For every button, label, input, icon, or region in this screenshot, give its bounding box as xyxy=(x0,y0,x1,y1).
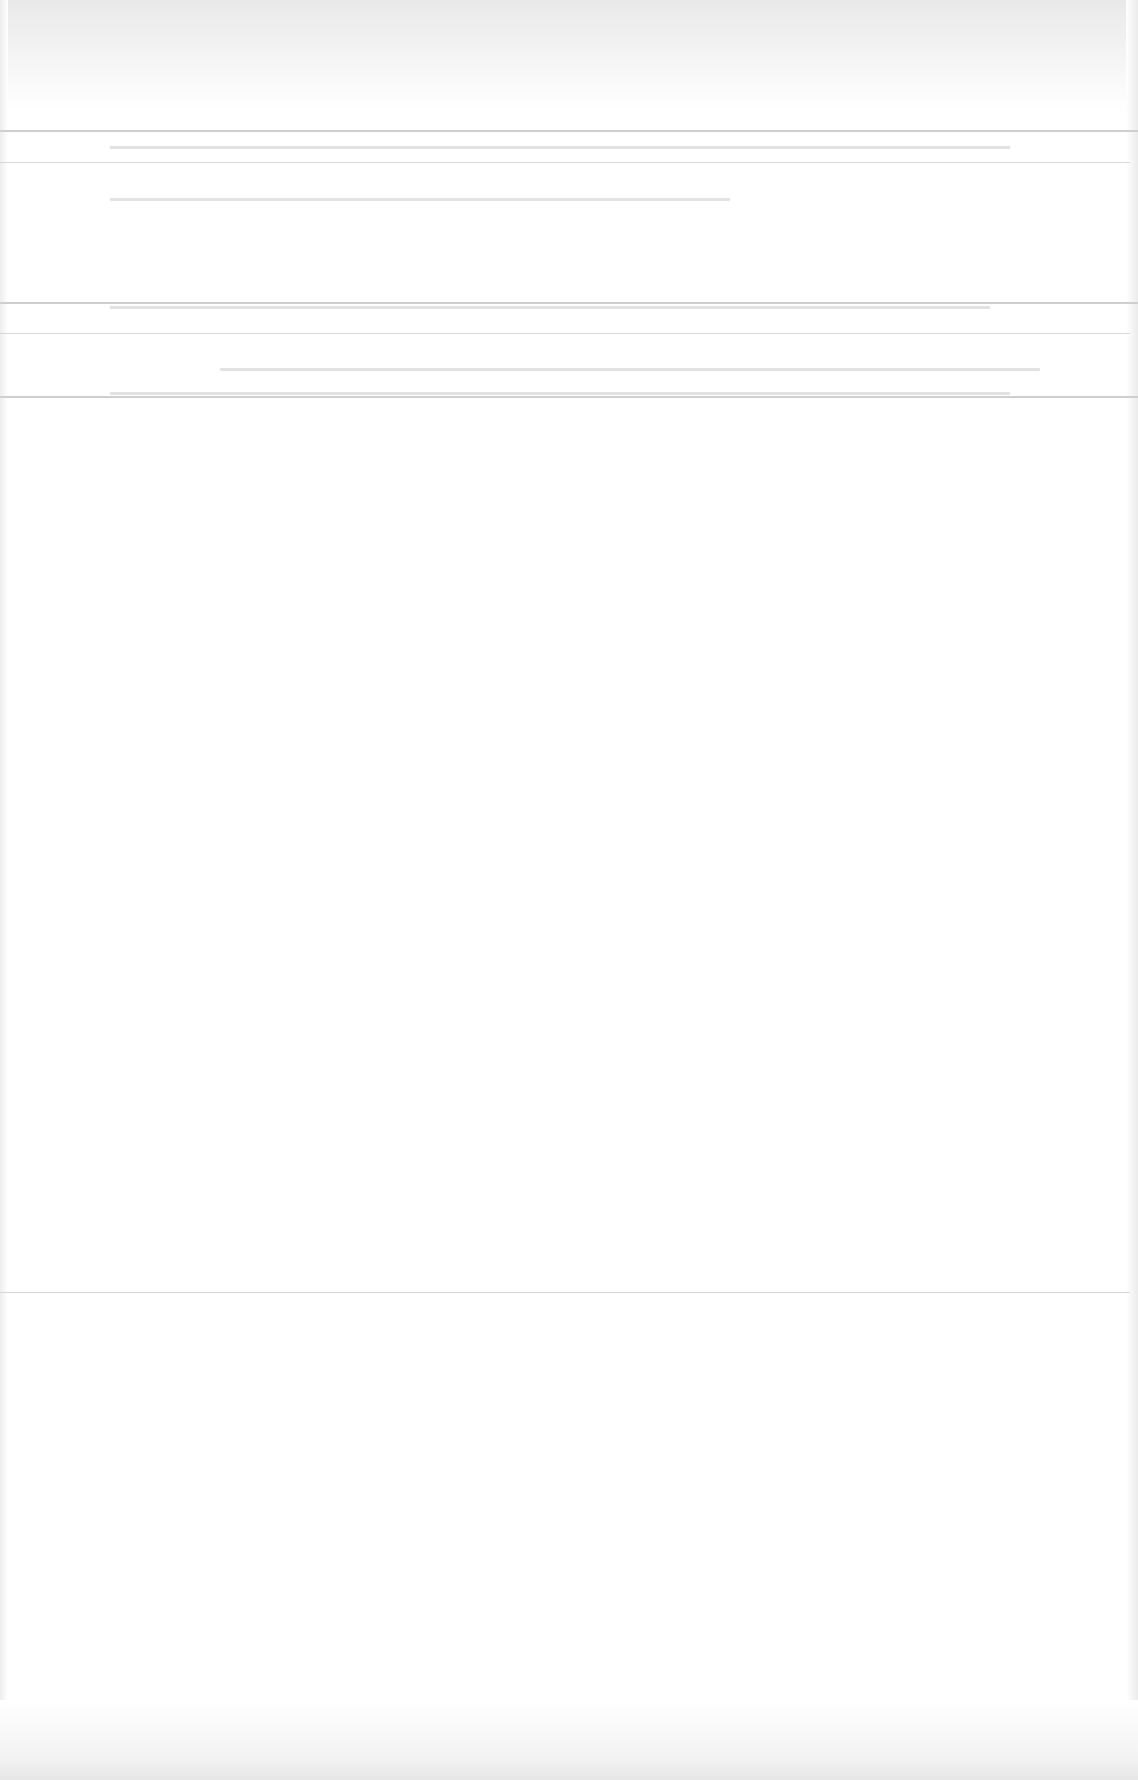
header-rule-bottom xyxy=(0,162,1130,163)
section-one-rule-top xyxy=(0,302,1138,304)
section-two-text-line-1 xyxy=(220,368,1040,371)
section-two-text-line-2 xyxy=(110,392,1010,395)
section-one-text-line-1 xyxy=(110,306,990,309)
section-one-rule-bottom xyxy=(0,333,1130,334)
section-two-rule xyxy=(0,396,1138,398)
page-right-shading xyxy=(1126,0,1138,1780)
body-area xyxy=(8,400,1126,1290)
page-top-shading xyxy=(0,0,1138,110)
page-left-shading xyxy=(0,0,8,1780)
body-bottom-rule xyxy=(0,1292,1130,1293)
page-bottom-shading xyxy=(0,1700,1138,1780)
header-text-line-2 xyxy=(110,198,730,201)
header-rule-top xyxy=(0,130,1138,132)
header-text-line-1 xyxy=(110,146,1010,149)
